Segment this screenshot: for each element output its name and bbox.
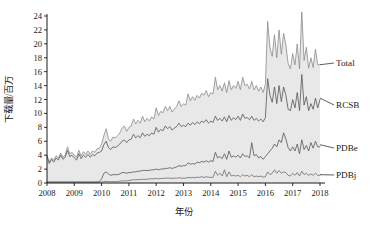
y-axis-title: 下载量/百万 xyxy=(3,76,14,124)
x-tick-label: 2010 xyxy=(93,188,110,198)
downloads-line-chart: 024681012141618202224 200820092010201120… xyxy=(0,0,371,227)
x-tick-label: 2008 xyxy=(38,188,55,198)
y-tick-label: 14 xyxy=(33,81,42,91)
y-tick-label: 24 xyxy=(33,11,42,21)
x-tick-label: 2018 xyxy=(311,188,328,198)
y-tick-label: 20 xyxy=(33,39,42,49)
y-tick-label: 18 xyxy=(33,53,42,63)
y-tick-label: 4 xyxy=(38,150,43,160)
x-tick-label: 2011 xyxy=(120,188,137,198)
x-axis-title: 年份 xyxy=(175,206,194,217)
y-tick-label: 0 xyxy=(38,178,42,188)
x-tick-label: 2017 xyxy=(284,188,302,198)
series-label-total: Total xyxy=(336,58,355,68)
series-label-pdbj: PDBj xyxy=(336,170,356,180)
y-tick-label: 2 xyxy=(38,164,42,174)
x-tick-label: 2009 xyxy=(66,188,83,198)
y-tick-label: 6 xyxy=(38,136,43,146)
x-axis-tick-labels: 2008200920102011201220132014201520162017… xyxy=(38,188,328,198)
y-tick-label: 16 xyxy=(33,67,42,77)
x-tick-label: 2014 xyxy=(202,188,220,198)
y-tick-label: 10 xyxy=(33,108,42,118)
y-tick-label: 22 xyxy=(33,25,42,35)
y-tick-label: 8 xyxy=(38,122,42,132)
x-tick-label: 2013 xyxy=(175,188,192,198)
chart-figure: 024681012141618202224 200820092010201120… xyxy=(0,0,371,227)
x-tick-label: 2012 xyxy=(148,188,165,198)
y-tick-label: 12 xyxy=(33,95,42,105)
series-label-rcsb: RCSB xyxy=(336,100,360,110)
x-tick-label: 2015 xyxy=(230,188,247,198)
series-label-pdbe: PDBe xyxy=(336,143,358,153)
x-tick-label: 2016 xyxy=(257,188,275,198)
